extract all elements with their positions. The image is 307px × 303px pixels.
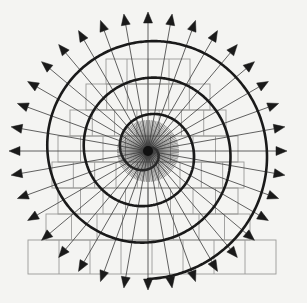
spiral-diagram-svg bbox=[0, 0, 307, 303]
hub-dot bbox=[143, 146, 153, 156]
figure-container bbox=[0, 0, 307, 303]
spiral-center-hub bbox=[117, 120, 179, 182]
